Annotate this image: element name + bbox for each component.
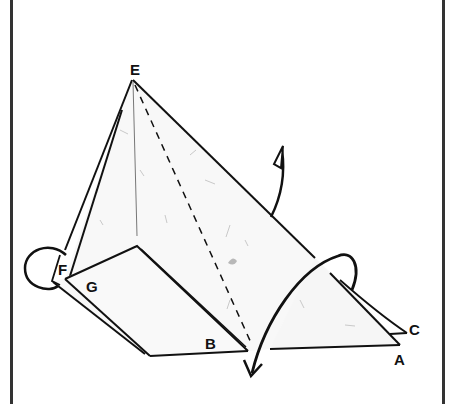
origami-diagram (0, 0, 451, 404)
label-b: B (205, 336, 216, 351)
label-f: F (58, 262, 67, 277)
label-a: A (394, 352, 405, 367)
label-c: C (409, 322, 420, 337)
paper-model (52, 80, 407, 356)
mountain-fold-arrow-icon (271, 146, 283, 217)
label-e: E (130, 62, 140, 77)
label-g: G (86, 279, 98, 294)
diagram-frame: E F G B A C (0, 0, 451, 404)
